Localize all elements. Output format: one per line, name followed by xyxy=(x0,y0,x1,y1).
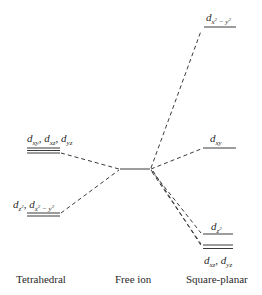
splitting-diagram xyxy=(0,0,262,295)
sq-dx2y2-label: dx2 − y2 xyxy=(206,12,231,26)
caption-square-planar: Square-planar xyxy=(186,274,248,285)
tetrahedral-lower-label: dz2, dx2 − y2 xyxy=(13,199,54,213)
caption-tetrahedral: Tetrahedral xyxy=(16,274,66,285)
sq-dz2-label: dz2 xyxy=(211,221,222,235)
tetrahedral-t2-level xyxy=(27,148,60,153)
sq-dxz-dyz-level xyxy=(203,245,233,249)
sq-dxy-label: dxy xyxy=(210,133,222,147)
caption-free-ion: Free ion xyxy=(115,274,151,285)
connector-lines xyxy=(61,31,202,247)
tetrahedral-e-level xyxy=(27,213,60,216)
sq-dxz-dyz-label: dxz, dyz xyxy=(204,255,232,269)
tetrahedral-upper-label: dxy, dxz, dyz xyxy=(27,133,72,147)
